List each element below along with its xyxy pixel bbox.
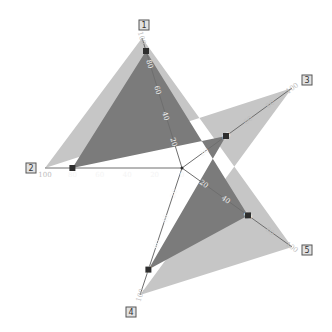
svg-text:3: 3 bbox=[304, 76, 309, 85]
tick-label: 100 bbox=[135, 288, 147, 303]
category-label-4: 4 bbox=[126, 307, 136, 317]
tick-label: 100 bbox=[284, 240, 300, 254]
svg-text:1: 1 bbox=[141, 21, 146, 30]
tick-label: 80 bbox=[68, 171, 77, 179]
svg-text:5: 5 bbox=[304, 246, 309, 255]
data-point-marker bbox=[69, 165, 75, 171]
tick-label: 20 bbox=[150, 171, 159, 179]
category-label-5: 5 bbox=[302, 245, 312, 255]
radar-chart: 2040608010002040608010020406080100204060… bbox=[0, 0, 332, 332]
tick-label: 100 bbox=[136, 31, 148, 46]
tick-label: 40 bbox=[123, 171, 132, 179]
category-label-2: 2 bbox=[26, 163, 36, 173]
category-label-3: 3 bbox=[302, 75, 312, 85]
data-point-marker bbox=[245, 212, 251, 218]
tick-label: 20 bbox=[169, 188, 179, 199]
svg-text:2: 2 bbox=[28, 164, 33, 173]
tick-label: 60 bbox=[95, 171, 104, 179]
data-point-marker bbox=[143, 48, 149, 54]
tick-label: 40 bbox=[160, 213, 170, 224]
tick-label: 0 bbox=[180, 171, 184, 179]
data-point-marker bbox=[145, 267, 151, 273]
category-label-1: 1 bbox=[139, 20, 149, 30]
svg-text:4: 4 bbox=[128, 308, 133, 317]
tick-label: 100 bbox=[38, 171, 51, 179]
data-point-marker bbox=[223, 133, 229, 139]
center-dot bbox=[181, 167, 184, 170]
tick-label: 100 bbox=[285, 81, 301, 95]
